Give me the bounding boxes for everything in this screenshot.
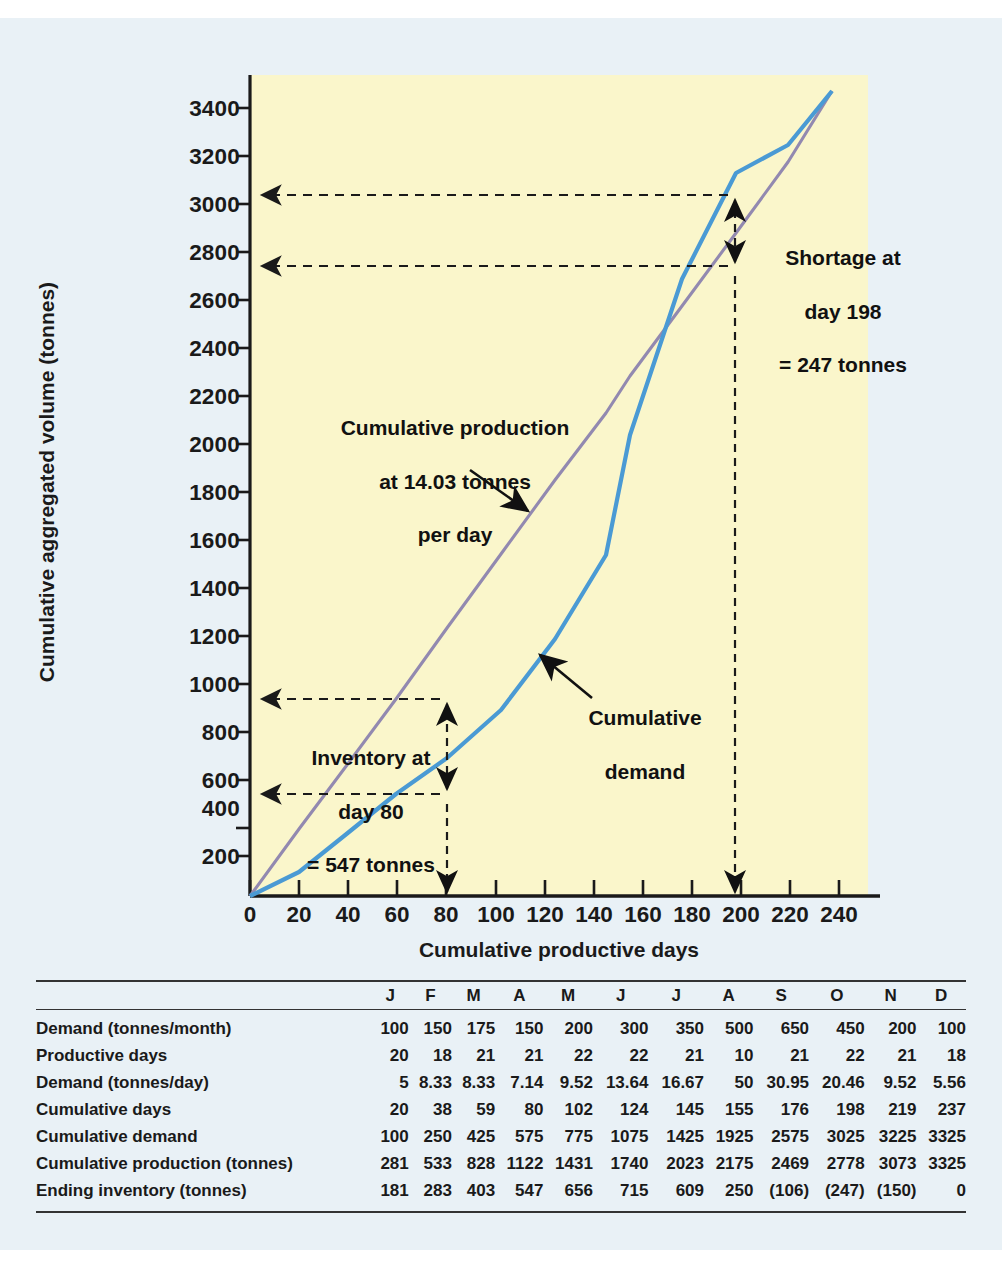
cell: 2023 [648,1151,704,1178]
table-row: Demand (tonnes/day) 5 8.33 8.33 7.14 9.5… [36,1070,966,1097]
cell: 2575 [753,1124,809,1151]
col-header-d: D [917,981,967,1010]
y-tick-label: 1400 [172,576,240,602]
y-tick-label: 400 [172,796,240,822]
cell: 828 [452,1151,495,1178]
table-bottom-rule [36,1211,966,1213]
y-tick-label: 1000 [172,672,240,698]
col-header-a2: A [704,981,753,1010]
cell: 22 [809,1043,865,1070]
y-axis-tick-labels: 3400 3200 3000 2800 2600 2400 2200 2000 … [168,18,240,963]
inventory-annotation-line1: Inventory at [278,745,464,772]
col-header-m: M [452,981,495,1010]
row-label: Demand (tonnes/month) [36,1010,372,1043]
cell: 16.67 [648,1070,704,1097]
cell: 219 [865,1097,917,1124]
cell: 1431 [543,1151,592,1178]
cell: (247) [809,1178,865,1212]
table-header-blank [36,981,372,1010]
cell: 656 [543,1178,592,1212]
cell: 21 [452,1043,495,1070]
cell: 100 [372,1124,409,1151]
cell: 425 [452,1124,495,1151]
cell: 2469 [753,1151,809,1178]
row-label: Cumulative production (tonnes) [36,1151,372,1178]
table-row: Cumulative days 20 38 59 80 102 124 145 … [36,1097,966,1124]
cell: 237 [917,1097,967,1124]
cell: 5 [372,1070,409,1097]
cell: 1122 [495,1151,543,1178]
col-header-f: F [409,981,452,1010]
cell: 175 [452,1010,495,1043]
cell: 9.52 [543,1070,592,1097]
cell: 50 [704,1070,753,1097]
cell: 533 [409,1151,452,1178]
cell: 22 [593,1043,649,1070]
col-header-s: S [753,981,809,1010]
cell: 3073 [865,1151,917,1178]
cell: 21 [495,1043,543,1070]
cell: 3325 [917,1151,967,1178]
table-header-row: J F M A M J J A S O N D [36,981,966,1010]
cell: 7.14 [495,1070,543,1097]
cell: 650 [753,1010,809,1043]
cell: 100 [917,1010,967,1043]
col-header-n: N [865,981,917,1010]
cell: 102 [543,1097,592,1124]
col-header-m2: M [543,981,592,1010]
chart-area: 3400 3200 3000 2800 2600 2400 2200 2000 … [0,18,1002,963]
y-axis-label: Cumulative aggregated volume (tonnes) [35,272,59,692]
col-header-j3: J [648,981,704,1010]
y-tick-label: 3200 [172,144,240,170]
y-tick-label: 1600 [172,528,240,554]
y-tick-label: 2400 [172,336,240,362]
y-tick-label: 200 [172,844,240,870]
col-header-o: O [809,981,865,1010]
cell: 155 [704,1097,753,1124]
cell: 2175 [704,1151,753,1178]
cell: 18 [409,1043,452,1070]
cell: (106) [753,1178,809,1212]
cell: (150) [865,1178,917,1212]
row-label: Ending inventory (tonnes) [36,1178,372,1212]
cell: 30.95 [753,1070,809,1097]
cell: 145 [648,1097,704,1124]
x-axis-tick-labels: 0 20 40 60 80 100 120 140 160 180 200 22… [0,902,1002,936]
table-row: Cumulative production (tonnes) 281 533 8… [36,1151,966,1178]
row-label: Cumulative demand [36,1124,372,1151]
cell: 3025 [809,1124,865,1151]
cell: 547 [495,1178,543,1212]
cell: 8.33 [409,1070,452,1097]
cell: 18 [917,1043,967,1070]
y-tick-label: 1800 [172,480,240,506]
cell: 80 [495,1097,543,1124]
cell: 150 [495,1010,543,1043]
cell: 1425 [648,1124,704,1151]
cell: 8.33 [452,1070,495,1097]
cell: 1075 [593,1124,649,1151]
cell: 715 [593,1178,649,1212]
cell: 198 [809,1097,865,1124]
cell: 450 [809,1010,865,1043]
table-row: Productive days 20 18 21 21 22 22 21 10 … [36,1043,966,1070]
x-axis-label: Cumulative productive days [250,938,868,962]
y-tick-label: 1200 [172,624,240,650]
data-table: J F M A M J J A S O N D Demand (tonnes/m… [36,980,966,1211]
y-tick-label: 2000 [172,432,240,458]
col-header-j: J [372,981,409,1010]
shortage-annotation-line1: Shortage at [748,245,938,272]
cell: 609 [648,1178,704,1212]
row-label: Demand (tonnes/day) [36,1070,372,1097]
cell: 350 [648,1010,704,1043]
cell: 124 [593,1097,649,1124]
cell: 181 [372,1178,409,1212]
table-row: Cumulative demand 100 250 425 575 775 10… [36,1124,966,1151]
cell: 20 [372,1043,409,1070]
cell: 59 [452,1097,495,1124]
cell: 20 [372,1097,409,1124]
cell: 100 [372,1010,409,1043]
cell: 281 [372,1151,409,1178]
y-tick-label: 3000 [172,192,240,218]
col-header-j2: J [593,981,649,1010]
cell: 300 [593,1010,649,1043]
